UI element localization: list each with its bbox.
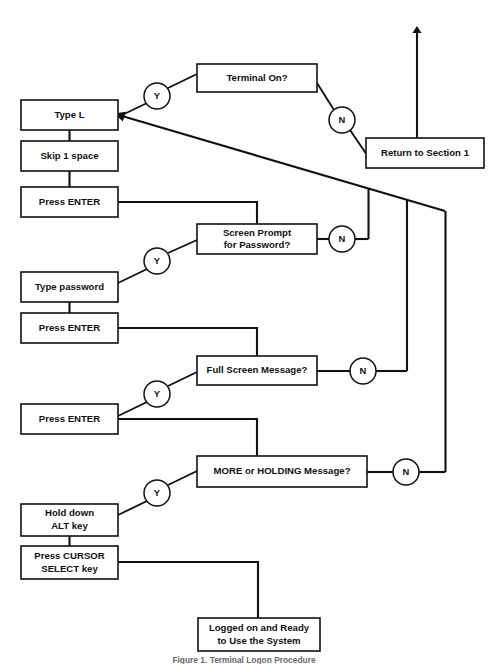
figure-caption: Figure 1. Terminal Logon Procedure <box>172 655 316 664</box>
node-press-enter-3[interactable]: Press ENTER <box>21 404 118 434</box>
node-screen-prompt-password[interactable]: Screen Prompt for Password? <box>197 224 317 254</box>
connector-cursor-select-to-logged-on <box>118 562 258 618</box>
branch-no-terminal-on-label: N <box>339 114 346 125</box>
connector-press-enter-2-to-full-screen <box>118 328 257 356</box>
node-logged-on-ready[interactable]: Logged on and Ready to Use the System <box>198 618 320 651</box>
branch-yes-more-holding-label: Y <box>154 487 161 498</box>
flowchart-root: Terminal On? Type L Return to Section 1 … <box>0 0 488 664</box>
node-full-screen-message[interactable]: Full Screen Message? <box>197 356 317 385</box>
node-more-or-holding-label: MORE or HOLDING Message? <box>214 465 351 476</box>
node-return-section-1[interactable]: Return to Section 1 <box>366 138 484 168</box>
branch-no-screen-prompt[interactable]: N <box>329 226 355 252</box>
node-screen-prompt-password-label-2: for Password? <box>224 239 291 250</box>
connector-press-enter-1-to-screen-prompt <box>118 202 257 224</box>
node-skip-1-space-label: Skip 1 space <box>40 150 98 161</box>
node-full-screen-message-label: Full Screen Message? <box>207 364 308 375</box>
node-type-l-label: Type L <box>54 109 84 120</box>
node-press-enter-3-label: Press ENTER <box>39 413 100 424</box>
node-terminal-on-label: Terminal On? <box>226 72 287 83</box>
connector-loop-risers <box>369 188 446 472</box>
branch-yes-screen-prompt-label: Y <box>154 255 161 266</box>
node-press-enter-1[interactable]: Press ENTER <box>21 187 118 217</box>
node-hold-down-alt[interactable]: Hold down ALT key <box>21 504 118 536</box>
branch-no-full-screen[interactable]: N <box>350 358 376 384</box>
node-hold-down-alt-label-1: Hold down <box>45 507 94 518</box>
flowchart-canvas: Terminal On? Type L Return to Section 1 … <box>0 0 488 664</box>
node-type-password[interactable]: Type password <box>21 272 118 302</box>
node-more-or-holding[interactable]: MORE or HOLDING Message? <box>197 456 367 487</box>
connector-press-enter-3-to-more-holding <box>118 419 257 456</box>
branch-no-more-holding[interactable]: N <box>393 459 419 485</box>
branch-yes-full-screen-label: Y <box>154 388 161 399</box>
node-screen-prompt-password-label-1: Screen Prompt <box>223 227 292 238</box>
node-press-enter-2-label: Press ENTER <box>39 322 100 333</box>
branch-no-full-screen-label: N <box>360 365 367 376</box>
figure-caption-label: Figure 1. Terminal Logon Procedure <box>172 655 316 664</box>
branch-yes-more-holding[interactable]: Y <box>144 480 170 506</box>
node-press-cursor-select-label-2: SELECT key <box>41 563 98 574</box>
node-type-l[interactable]: Type L <box>21 100 118 130</box>
node-press-enter-2[interactable]: Press ENTER <box>21 313 118 343</box>
node-hold-down-alt-label-2: ALT key <box>51 520 88 531</box>
branch-no-screen-prompt-label: N <box>339 233 346 244</box>
node-type-password-label: Type password <box>35 281 104 292</box>
node-press-cursor-select-label-1: Press CURSOR <box>34 550 104 561</box>
node-return-section-1-label: Return to Section 1 <box>381 147 470 158</box>
node-logged-on-ready-label-2: to Use the System <box>217 635 300 646</box>
node-skip-1-space[interactable]: Skip 1 space <box>21 141 118 171</box>
branch-no-more-holding-label: N <box>403 466 410 477</box>
node-press-cursor-select[interactable]: Press CURSOR SELECT key <box>21 546 118 579</box>
node-terminal-on[interactable]: Terminal On? <box>197 64 317 92</box>
branch-yes-screen-prompt[interactable]: Y <box>144 248 170 274</box>
branch-no-terminal-on[interactable]: N <box>329 107 355 133</box>
branch-yes-full-screen[interactable]: Y <box>144 381 170 407</box>
branch-yes-terminal-on[interactable]: Y <box>144 83 170 109</box>
node-logged-on-ready-label-1: Logged on and Ready <box>209 622 310 633</box>
node-press-enter-1-label: Press ENTER <box>39 196 100 207</box>
branch-yes-terminal-on-label: Y <box>154 90 161 101</box>
